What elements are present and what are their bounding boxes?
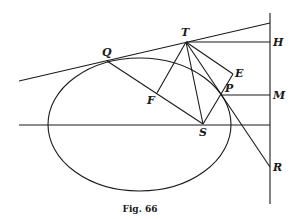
line-TE [186, 42, 233, 74]
figure-caption: Fig. 66 [123, 204, 158, 214]
label-T: T [181, 26, 190, 39]
label-H: H [272, 36, 284, 49]
figure-66-diagram: T H Q E P M F S R Fig. 66 [0, 0, 298, 219]
line-QS [107, 61, 203, 124]
label-E: E [234, 67, 244, 80]
tangent-line-QT [19, 23, 270, 81]
label-Q: Q [102, 46, 112, 59]
label-M: M [272, 89, 286, 102]
label-P: P [224, 82, 234, 95]
label-R: R [272, 161, 282, 174]
label-S: S [199, 126, 207, 139]
line-TF [157, 42, 186, 93]
label-F: F [146, 94, 156, 107]
